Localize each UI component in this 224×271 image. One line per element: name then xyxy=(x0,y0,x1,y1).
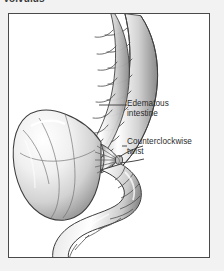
figure-frame xyxy=(8,13,210,258)
page-margin-bottom xyxy=(0,262,224,271)
page-margin-right xyxy=(216,0,224,271)
page-margin-left xyxy=(0,0,8,271)
callout-counterclockwise-twist: Counterclockwise twist xyxy=(127,137,192,156)
sigmoid-volvulus-illustration xyxy=(9,14,209,257)
callout-edematous-intestine: Edematous intestine xyxy=(127,99,169,118)
figure-title: Volvulus xyxy=(3,0,45,4)
edematous-distended-bowel-loop xyxy=(13,110,101,220)
